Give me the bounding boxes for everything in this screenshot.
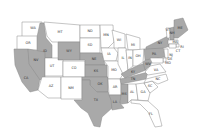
state-label-al: AL bbox=[130, 90, 134, 94]
state-label-wi: WI bbox=[117, 38, 121, 42]
state-label-ar: AR bbox=[113, 85, 118, 89]
state-label-tn: TN bbox=[130, 77, 136, 81]
state-label-ga: GA bbox=[141, 90, 147, 94]
state-label-nh: NH bbox=[169, 31, 175, 35]
state-label-mn: MN bbox=[103, 33, 109, 37]
state-label-fl: FL bbox=[149, 112, 153, 116]
state-label-sd: SD bbox=[88, 43, 93, 47]
state-label-pa: PA bbox=[152, 52, 157, 56]
state-label-wa: WA bbox=[30, 26, 36, 30]
state-label-tx: TX bbox=[93, 98, 99, 102]
state-label-nv: NV bbox=[34, 58, 40, 62]
state-label-oh: OH bbox=[135, 54, 141, 58]
us-choropleth-map: WAORCAIDNVMTWYUTAZCONMNDSDNEKSOKTXMNIAMO… bbox=[0, 0, 205, 140]
state-label-sc: SC bbox=[148, 84, 153, 88]
state-label-ok: OK bbox=[98, 82, 104, 86]
state-label-ct: CT bbox=[176, 49, 181, 53]
state-label-ne: NE bbox=[92, 57, 97, 61]
state-fl bbox=[131, 100, 162, 127]
state-label-co: CO bbox=[71, 66, 76, 70]
state-label-or: OR bbox=[25, 41, 31, 45]
state-label-ri: RI bbox=[180, 45, 183, 49]
map-svg: WAORCAIDNVMTWYUTAZCONMNDSDNEKSOKTXMNIAMO… bbox=[0, 0, 205, 140]
state-label-az: AZ bbox=[49, 84, 54, 88]
state-label-mi: MI bbox=[131, 43, 135, 47]
state-label-la: LA bbox=[113, 100, 118, 104]
state-label-ca: CA bbox=[24, 76, 29, 80]
state-label-mo: MO bbox=[111, 68, 117, 72]
state-label-wy: WY bbox=[66, 49, 72, 53]
state-label-me: ME bbox=[177, 26, 182, 30]
state-label-ks: KS bbox=[94, 69, 98, 73]
state-label-id: ID bbox=[43, 49, 47, 53]
state-label-wv: WV bbox=[145, 62, 151, 66]
state-label-nc: NC bbox=[156, 77, 162, 81]
state-label-md: MD bbox=[165, 61, 171, 65]
state-label-nd: ND bbox=[87, 29, 93, 33]
state-label-ma: MA bbox=[172, 40, 178, 44]
state-label-ms: MS bbox=[121, 92, 126, 96]
state-label-in: IN bbox=[128, 56, 132, 60]
state-label-nm: NM bbox=[68, 86, 74, 90]
state-md bbox=[150, 58, 163, 63]
state-label-il: IL bbox=[122, 56, 125, 60]
state-label-va: VA bbox=[154, 68, 159, 72]
state-ri bbox=[176, 44, 179, 47]
state-ct bbox=[169, 44, 176, 48]
